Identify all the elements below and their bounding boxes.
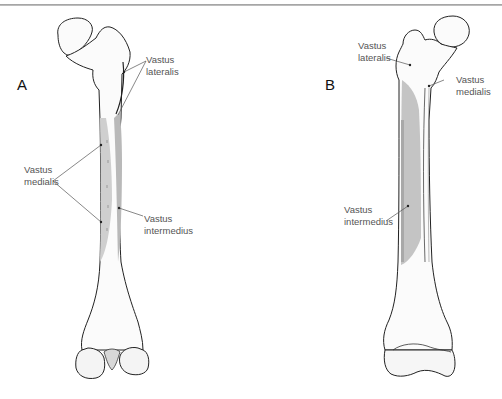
label-line: intermedius (344, 216, 393, 228)
label-vastus-intermedius-a: Vastus intermedius (144, 213, 193, 237)
label-vastus-medialis-a: Vastus medialis (24, 164, 52, 188)
label-vastus-medialis-b: Vastus medialis (456, 74, 491, 98)
label-line: Vastus (456, 74, 491, 86)
panel-label-b: B (325, 76, 335, 93)
label-line: lateralis (358, 52, 391, 64)
label-line: Vastus (146, 54, 179, 66)
label-line: Vastus (344, 204, 393, 216)
label-line: lateralis (146, 66, 179, 78)
label-line: intermedius (144, 225, 193, 237)
label-vastus-lateralis-b: Vastus lateralis (358, 40, 391, 64)
label-line: Vastus (144, 213, 193, 225)
label-line: Vastus (358, 40, 391, 52)
panel-a-anterior-femur: A Vastus lateralis Vastus medialis Vastu… (0, 0, 251, 399)
label-line: medialis (24, 176, 52, 188)
panel-label-a: A (17, 76, 27, 93)
panel-b-posterior-femur: B Vastus lateralis Vastus medialis Vastu… (251, 0, 502, 399)
label-vastus-intermedius-b: Vastus intermedius (344, 204, 393, 228)
label-line: medialis (456, 86, 491, 98)
femur-anterior-illustration (0, 0, 251, 399)
label-vastus-lateralis-a: Vastus lateralis (146, 54, 179, 78)
label-line: Vastus (24, 164, 52, 176)
